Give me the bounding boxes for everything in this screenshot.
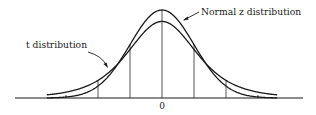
normal-arrowhead-icon	[183, 17, 189, 21]
distribution-diagram: 0 Normal z distribution t distribution	[0, 0, 316, 115]
t-arrowhead-icon	[104, 63, 109, 69]
normal-label: Normal z distribution	[201, 6, 301, 17]
zero-tick-label: 0	[159, 101, 165, 111]
t-label: t distribution	[26, 39, 87, 50]
ordinate-lines	[66, 10, 258, 98]
